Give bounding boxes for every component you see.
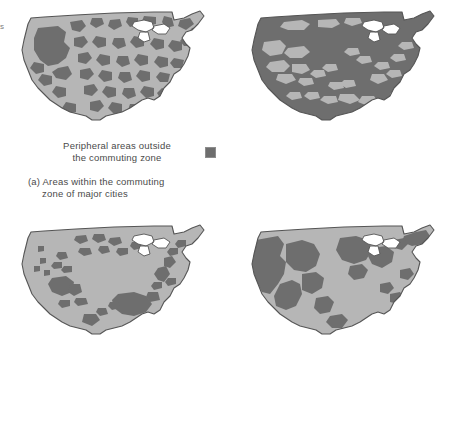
caption-a-line2: zone of major cities xyxy=(28,188,223,200)
panel-c: >80% 0–79% (c) Percentage of households … xyxy=(230,0,459,214)
legend-panel-a: Peripheral areas outside the commuting z… xyxy=(42,140,192,163)
us-map-high-fertility xyxy=(14,222,214,352)
four-panel-us-map-figure: s xyxy=(0,0,459,428)
legend-a-line2: the commuting zone xyxy=(72,152,161,163)
legend-a-line1: Peripheral areas outside xyxy=(63,140,171,151)
us-map-commuting-zone xyxy=(14,8,214,138)
panel-d: 11–30% 0–10% (d) Percentage of household… xyxy=(230,214,459,428)
us-map-television-receivers xyxy=(244,8,444,138)
caption-panel-a: (a) Areas within the commuting zone of m… xyxy=(28,176,223,200)
legend-a-swatch xyxy=(205,147,216,158)
panel-b: 4 or more children per married woman age… xyxy=(0,214,229,428)
us-map-color-receivers xyxy=(244,222,444,352)
panel-a: Peripheral areas outside the commuting z… xyxy=(0,0,229,214)
caption-a-line1: (a) Areas within the commuting xyxy=(28,176,164,187)
